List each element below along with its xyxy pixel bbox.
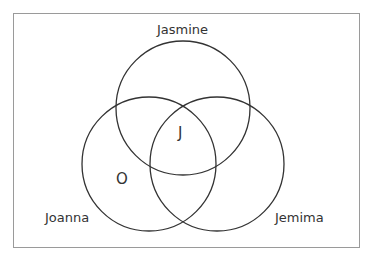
jasmine-label: Jasmine: [157, 22, 208, 37]
center-marker: J: [178, 124, 182, 142]
jasmine-circle: [116, 41, 250, 175]
joanna-only-marker: O: [116, 170, 128, 188]
joanna-label: Joanna: [45, 210, 89, 225]
jemima-circle: [150, 97, 284, 231]
jemima-label: Jemima: [275, 210, 324, 225]
joanna-circle: [82, 97, 216, 231]
